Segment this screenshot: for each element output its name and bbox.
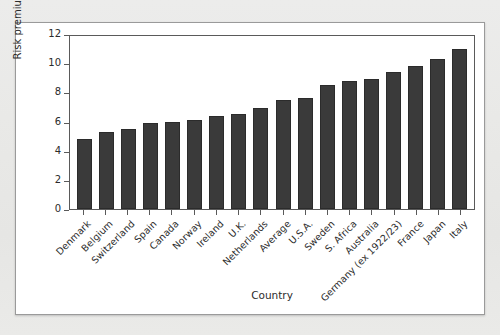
bar (408, 66, 423, 209)
x-axis-tick-mark (276, 210, 291, 215)
bar (231, 114, 246, 209)
x-axis-tick-mark (187, 210, 202, 215)
bar-series (70, 36, 474, 209)
bar (77, 139, 92, 209)
y-axis-tick-label: 12 (48, 28, 61, 40)
x-axis-tick-mark (142, 210, 157, 215)
x-axis-tick-mark (431, 210, 446, 215)
bar (209, 116, 224, 209)
x-axis-title: Country (69, 289, 475, 301)
bar (342, 81, 357, 209)
x-axis-tick-mark (98, 210, 113, 215)
x-axis-tick-mark (76, 210, 91, 215)
bar (430, 59, 445, 209)
bar (187, 120, 202, 209)
y-axis-tick-label: 6 (55, 116, 61, 128)
screenshot-root: Risk premium, % 024681012 DenmarkBelgium… (0, 0, 500, 335)
x-axis-tick-mark (342, 210, 357, 215)
bar (99, 132, 114, 209)
x-axis-tick-mark (320, 210, 335, 215)
x-axis-tick-label: Japan (421, 218, 448, 245)
x-axis-tick-mark (120, 210, 135, 215)
y-axis-title: Risk premium, % (12, 0, 23, 77)
bar (364, 79, 379, 209)
x-axis-tick-mark (453, 210, 468, 215)
bar (276, 100, 291, 209)
x-axis-tick-label: Italy (447, 218, 470, 241)
x-axis-tick-mark (164, 210, 179, 215)
bar (386, 72, 401, 209)
bar (320, 85, 335, 209)
bar (253, 108, 268, 209)
x-axis-tick-mark (409, 210, 424, 215)
y-axis-tick-label: 0 (55, 203, 61, 215)
plot-area (69, 35, 475, 210)
bar (165, 122, 180, 210)
bar (298, 98, 313, 209)
x-axis-tick-mark (298, 210, 313, 215)
y-axis-tick-label: 10 (48, 57, 61, 69)
x-axis-tick-mark (231, 210, 246, 215)
figure-frame: Risk premium, % 024681012 DenmarkBelgium… (15, 22, 485, 315)
y-axis: Risk premium, % 024681012 (16, 35, 69, 210)
x-axis-tick-mark (364, 210, 379, 215)
bar (121, 129, 136, 209)
bar (452, 49, 467, 209)
y-axis-tick-label: 2 (55, 174, 61, 186)
x-axis-tick-mark (387, 210, 402, 215)
bar (143, 123, 158, 209)
x-axis-tick-mark (209, 210, 224, 215)
x-axis-tick-mark (253, 210, 268, 215)
y-axis-tick-label: 4 (55, 145, 61, 157)
y-axis-tick-label: 8 (55, 86, 61, 98)
x-axis-ticks (69, 210, 475, 215)
